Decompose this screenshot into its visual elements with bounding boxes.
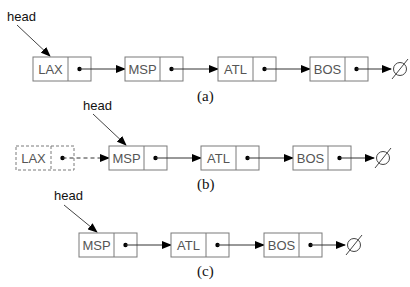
panel-caption: (b) <box>197 176 215 193</box>
node-element-label: LAX <box>21 151 46 166</box>
node-element-label: BOS <box>268 238 296 253</box>
panel-a: headLAXMSPATLBOS(a) <box>7 9 408 105</box>
panel-b: headLAXMSPATLBOS(b) <box>16 98 391 193</box>
head-pointer-arrow <box>17 25 50 56</box>
node-element-label: LAX <box>38 62 63 77</box>
panel-c: headMSPATLBOS(c) <box>54 188 362 280</box>
null-icon <box>346 235 362 255</box>
node-element-label: MSP <box>82 238 110 253</box>
head-pointer-arrow <box>64 205 97 232</box>
head-label: head <box>83 98 112 113</box>
node-element-label: BOS <box>314 62 342 77</box>
head-pointer-arrow <box>93 114 126 145</box>
panel-caption: (a) <box>197 88 214 105</box>
panel-caption: (c) <box>197 263 214 280</box>
head-label: head <box>7 9 36 24</box>
node-element-label: BOS <box>297 151 325 166</box>
node-element-label: MSP <box>112 151 140 166</box>
node-element-label: ATL <box>224 62 247 77</box>
null-icon <box>392 59 408 79</box>
linked-list-diagram: headLAXMSPATLBOS(a)headLAXMSPATLBOS(b)he… <box>0 0 410 287</box>
node-element-label: ATL <box>207 151 230 166</box>
null-icon <box>375 148 391 168</box>
node-element-label: MSP <box>128 62 156 77</box>
head-label: head <box>54 188 83 203</box>
node-element-label: ATL <box>177 238 200 253</box>
